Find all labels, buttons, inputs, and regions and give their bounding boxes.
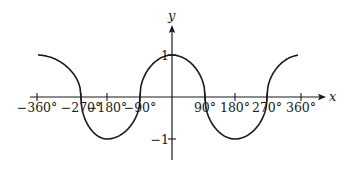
x-tick-label: 180° — [220, 100, 250, 115]
chart-container: −360°−270°−180°−90°90°180°270°360°1−1 x … — [0, 0, 347, 169]
cosine-graph: −360°−270°−180°−90°90°180°270°360°1−1 x … — [0, 0, 347, 169]
x-tick-label: 360° — [286, 100, 316, 115]
x-tick-label: −360° — [17, 100, 58, 115]
y-axis-label: y — [167, 8, 176, 23]
y-tick-label: −1 — [151, 132, 169, 147]
x-tick-label: −180° — [87, 100, 128, 115]
x-axis-label: x — [329, 89, 337, 104]
axes — [30, 25, 326, 160]
